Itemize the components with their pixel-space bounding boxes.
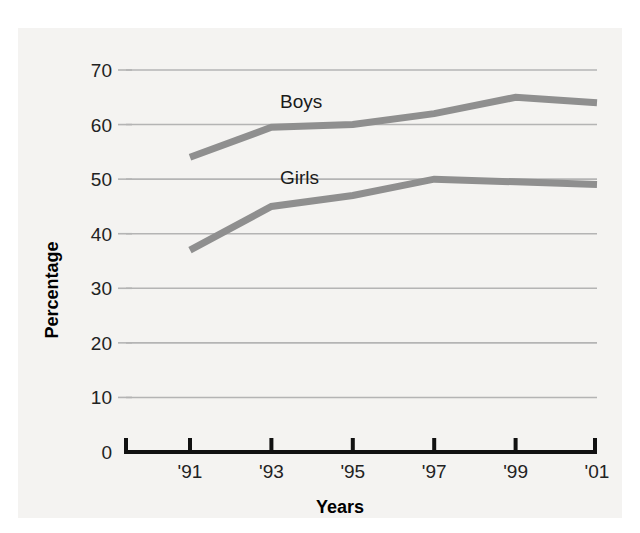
x-axis-tick-label-group: '91'93'95'97'99'01 xyxy=(178,461,610,482)
y-tick-label-70: 70 xyxy=(91,60,112,81)
y-tick-label-30: 30 xyxy=(91,278,112,299)
line-chart: 10203040506070 '91'93'95'97'99'01 0 Boys… xyxy=(0,0,640,533)
x-axis-tick-group xyxy=(190,438,516,452)
y-tick-label-40: 40 xyxy=(91,224,112,245)
series-label-girls: Girls xyxy=(280,167,319,188)
x-tick-label-01: '01 xyxy=(585,461,610,482)
y-axis-tick-label-group: 10203040506070 xyxy=(91,60,112,408)
x-tick-label-99: '99 xyxy=(503,461,528,482)
y-axis-title: Percentage xyxy=(42,241,62,338)
y-tick-label-50: 50 xyxy=(91,169,112,190)
figure-container: 10203040506070 '91'93'95'97'99'01 0 Boys… xyxy=(0,0,640,533)
x-tick-label-95: '95 xyxy=(340,461,365,482)
y-axis-tick-group xyxy=(118,70,132,397)
y-axis-zero-label: 0 xyxy=(101,442,112,463)
x-axis-line xyxy=(124,438,597,452)
y-tick-label-20: 20 xyxy=(91,333,112,354)
series-label-boys: Boys xyxy=(280,91,322,112)
y-tick-label-60: 60 xyxy=(91,115,112,136)
x-tick-label-97: '97 xyxy=(422,461,447,482)
series-line-girls xyxy=(190,179,597,250)
x-tick-label-93: '93 xyxy=(259,461,284,482)
series-annotation-group: BoysGirls xyxy=(280,91,322,188)
x-tick-label-91: '91 xyxy=(178,461,203,482)
data-series-group xyxy=(190,97,597,250)
x-axis-title: Years xyxy=(316,497,364,517)
gridline-group xyxy=(126,70,597,397)
y-tick-label-10: 10 xyxy=(91,387,112,408)
series-line-boys xyxy=(190,97,597,157)
